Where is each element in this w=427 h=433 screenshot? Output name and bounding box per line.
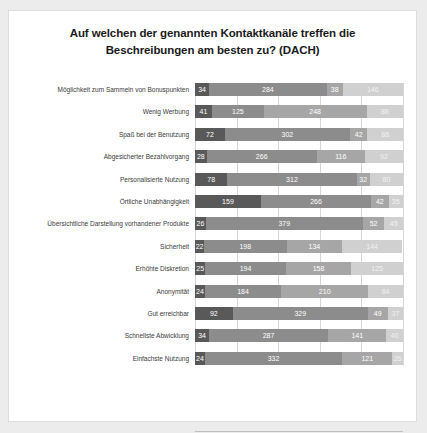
bar-segment: 146 — [343, 83, 404, 96]
bar-segment: 72 — [195, 128, 225, 141]
gridline — [403, 83, 404, 365]
chart-title: Auf welchen der genannten Kontaktkanäle … — [9, 11, 416, 59]
bar-row: 783123280 — [195, 173, 403, 186]
bar-segment: 28 — [195, 150, 207, 163]
bar-segment: 144 — [342, 240, 402, 253]
bar-segment: 35 — [389, 195, 403, 208]
chart-card: Auf welchen der genannten Kontaktkanäle … — [8, 10, 417, 422]
bar-row: 25194158125 — [195, 262, 403, 275]
bar-row: 4112524888 — [195, 105, 403, 118]
bar-segment: 194 — [205, 262, 285, 275]
bar-segment: 121 — [342, 352, 392, 365]
bar-segment: 125 — [212, 105, 264, 118]
y-axis-label: Abgesicherter Bezahlvorgang — [13, 150, 193, 163]
bar-segment: 88 — [367, 105, 403, 118]
y-axis-label: Möglichkeit zum Sammeln von Bonuspunkten — [13, 83, 193, 96]
bar-segment: 25 — [195, 262, 205, 275]
bar-segment: 49 — [368, 307, 388, 320]
bar-row: 1592664235 — [195, 195, 403, 208]
bar-segment: 26 — [392, 352, 403, 365]
bar-segment: 34 — [195, 83, 209, 96]
bar-segment: 78 — [195, 173, 227, 186]
y-axis-labels: Möglichkeit zum Sammeln von Bonuspunkten… — [13, 83, 193, 365]
bar-segment: 248 — [264, 105, 367, 118]
bar-segment: 312 — [227, 173, 356, 186]
bar-segment: 287 — [209, 329, 328, 342]
bar-segment: 141 — [328, 329, 386, 342]
x-axis-line — [195, 431, 403, 432]
bar-segment: 86 — [367, 128, 403, 141]
bar-segment: 32 — [357, 173, 370, 186]
chart-title-line-2: Beschreibungen am besten zu? (DACH) — [35, 42, 390, 59]
bar-rows: 3428438146411252488872302428628266116927… — [195, 83, 403, 365]
chart-title-line-1: Auf welchen der genannten Kontaktkanäle … — [35, 25, 390, 42]
bar-segment: 52 — [363, 217, 385, 230]
y-axis-label: Gut erreichbar — [13, 307, 193, 320]
bar-segment: 159 — [195, 195, 261, 208]
bar-segment: 42 — [350, 128, 367, 141]
bar-segment: 158 — [286, 262, 351, 275]
plot-area: Möglichkeit zum Sammeln von Bonuspunkten… — [9, 77, 416, 369]
bar-segment: 266 — [261, 195, 371, 208]
bar-row: 2826611692 — [195, 150, 403, 163]
bar-row: 723024286 — [195, 128, 403, 141]
y-axis-label: Erhöhte Diskretion — [13, 262, 193, 275]
bars-region: 3428438146411252488872302428628266116927… — [195, 83, 403, 365]
y-axis-label: Übersichtliche Darstellung vorhandener P… — [13, 217, 193, 230]
bar-segment: 24 — [195, 285, 205, 298]
bar-row: 923294937 — [195, 307, 403, 320]
y-axis-label: Einfachste Nutzung — [13, 352, 193, 365]
bar-segment: 80 — [370, 173, 403, 186]
bar-segment: 38 — [327, 83, 343, 96]
bar-segment: 42 — [371, 195, 388, 208]
bar-segment: 45 — [384, 217, 403, 230]
bar-segment: 134 — [287, 240, 343, 253]
y-axis-label: Sicherheit — [13, 240, 193, 253]
bar-segment: 40 — [386, 329, 403, 342]
bar-row: 22198134144 — [195, 240, 403, 253]
bar-segment: 266 — [207, 150, 317, 163]
bar-segment: 84 — [368, 285, 403, 298]
bar-segment: 34 — [195, 329, 209, 342]
y-axis-label: Anonymität — [13, 285, 193, 298]
bar-segment: 41 — [195, 105, 212, 118]
bar-segment: 116 — [317, 150, 365, 163]
bar-segment: 302 — [225, 128, 350, 141]
y-axis-label: Spaß bei der Benutzung — [13, 128, 193, 141]
y-axis-label: Örtliche Unabhängigkeit — [13, 195, 193, 208]
bar-segment: 332 — [205, 352, 342, 365]
bar-segment: 26 — [195, 217, 206, 230]
bar-segment: 22 — [195, 240, 204, 253]
y-axis-label: Schnellste Abwicklung — [13, 329, 193, 342]
bar-segment: 210 — [281, 285, 368, 298]
bar-segment: 184 — [205, 285, 281, 298]
bar-segment: 198 — [204, 240, 286, 253]
bar-segment: 329 — [233, 307, 368, 320]
bar-row: 2418421084 — [195, 285, 403, 298]
bar-row: 3428438146 — [195, 83, 403, 96]
bar-segment: 37 — [388, 307, 403, 320]
bar-segment: 125 — [351, 262, 403, 275]
bar-row: 263795245 — [195, 217, 403, 230]
y-axis-label: Personalisierte Nutzung — [13, 173, 193, 186]
bar-segment: 284 — [209, 83, 327, 96]
bar-segment: 379 — [206, 217, 363, 230]
bar-segment: 92 — [195, 307, 233, 320]
bar-segment: 24 — [195, 352, 205, 365]
bar-row: 3428714140 — [195, 329, 403, 342]
y-axis-label: Wenig Werbung — [13, 105, 193, 118]
bar-segment: 92 — [365, 150, 403, 163]
bar-row: 2433212126 — [195, 352, 403, 365]
